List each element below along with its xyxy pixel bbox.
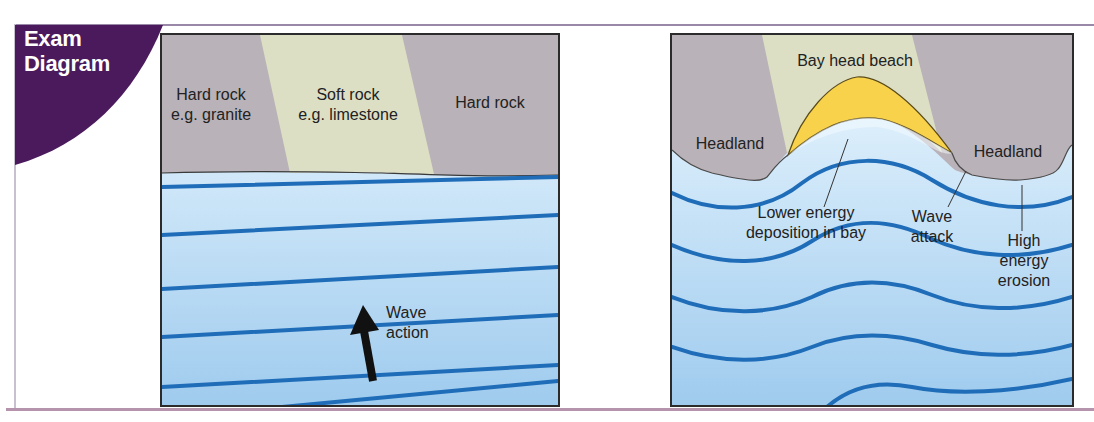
label-headland-left: Headland	[690, 134, 770, 154]
label-lower-energy-deposition: Lower energy deposition in bay	[736, 203, 876, 243]
badge-line-1: Exam	[24, 26, 110, 51]
badge-title: Exam Diagram	[24, 26, 110, 76]
left-panel-before-erosion: Hard rock e.g. granite Soft rock e.g. li…	[160, 33, 560, 407]
right-panel-headlands-and-bays: Bay head beach Headland Headland Lower e…	[670, 33, 1074, 407]
label-headland-right: Headland	[968, 142, 1048, 162]
label-wave-attack: Wave attack	[904, 207, 960, 247]
badge-line-2: Diagram	[24, 51, 110, 76]
label-hard-rock-granite: Hard rock e.g. granite	[166, 85, 256, 125]
frame-bottom-border	[6, 408, 1094, 411]
label-bay-head-beach: Bay head beach	[780, 51, 930, 71]
frame-top-border	[14, 24, 1094, 26]
label-wave-action: Wave action	[386, 303, 436, 343]
label-hard-rock-right: Hard rock	[445, 93, 535, 113]
label-high-energy-erosion: High energy erosion	[992, 231, 1056, 291]
label-soft-rock-limestone: Soft rock e.g. limestone	[288, 85, 408, 125]
